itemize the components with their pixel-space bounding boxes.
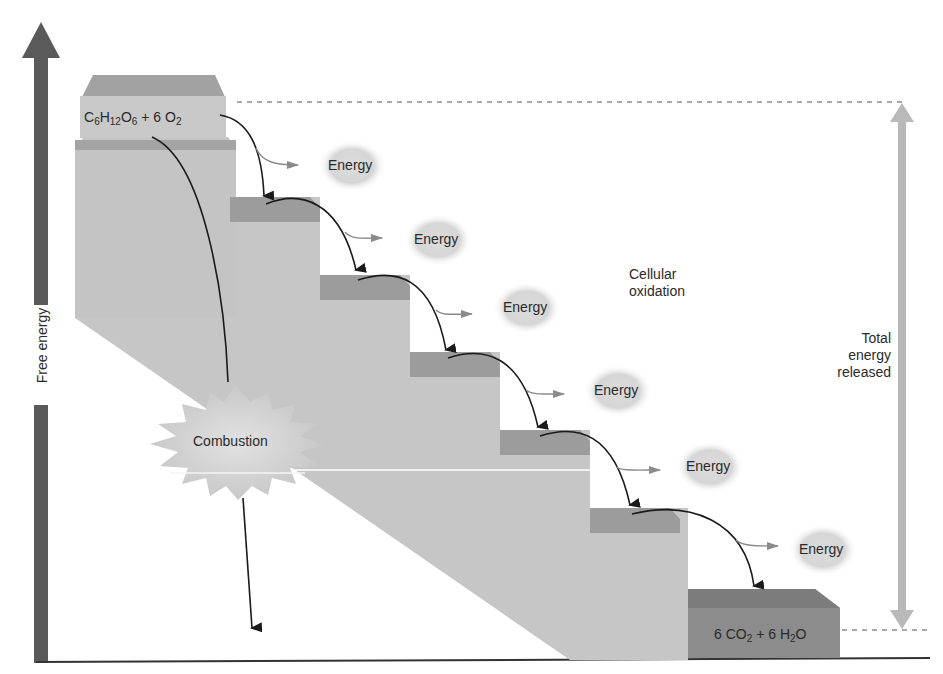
y-axis-label: Free energy — [34, 306, 51, 386]
end-block — [688, 589, 840, 658]
start-reactants-label: C6H12O6 + 6 O2 — [84, 109, 181, 126]
combustion-label: Combustion — [193, 433, 268, 450]
formula-part: 6 CO — [714, 626, 747, 642]
cellular-oxidation-label: Cellular oxidation — [629, 266, 685, 300]
formula-subscript: 12 — [110, 116, 121, 127]
energy-label-5: Energy — [686, 458, 730, 475]
start-block-base — [75, 137, 236, 318]
formula-part: C — [84, 109, 94, 125]
energy-staircase-diagram — [0, 0, 943, 674]
baseline-axis — [36, 658, 930, 662]
formula-part: H — [100, 109, 110, 125]
formula-part: + 6 O — [137, 109, 176, 125]
label-line: Cellular — [629, 266, 685, 283]
energy-label-6: Energy — [799, 541, 843, 558]
label-line: Total — [825, 330, 891, 347]
energy-label-3: Energy — [503, 299, 547, 316]
label-line: released — [825, 364, 891, 381]
formula-subscript: 2 — [176, 116, 182, 127]
end-products-label: 6 CO2 + 6 H2O — [714, 626, 806, 643]
total-energy-double-arrow — [890, 103, 914, 629]
total-energy-released-label: Total energy released — [825, 330, 891, 381]
formula-part: O — [121, 109, 132, 125]
label-line: oxidation — [629, 283, 685, 300]
label-line: energy — [825, 347, 891, 364]
energy-label-1: Energy — [328, 157, 372, 174]
energy-label-4: Energy — [594, 382, 638, 399]
formula-part: + 6 H — [752, 626, 790, 642]
start-block-top — [82, 75, 225, 97]
formula-part: O — [796, 626, 807, 642]
energy-label-2: Energy — [414, 231, 458, 248]
